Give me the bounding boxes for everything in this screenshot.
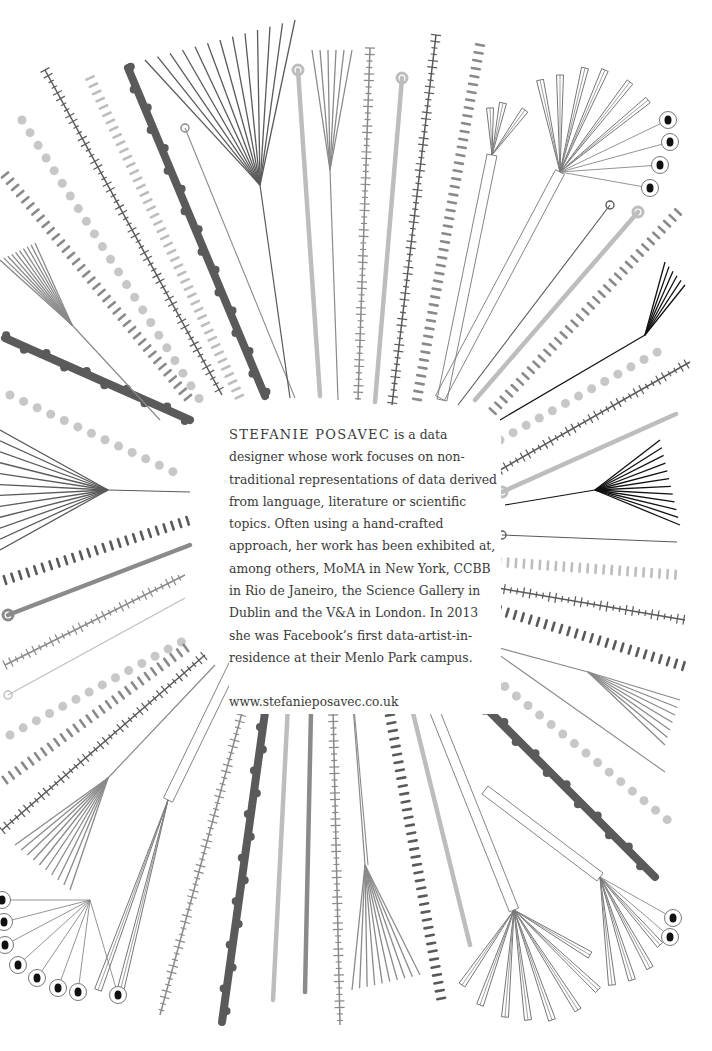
stroke-hatch <box>0 652 207 834</box>
stroke-thickline <box>3 545 190 620</box>
line-fan <box>350 665 420 990</box>
stroke-hatch <box>497 583 685 625</box>
stroke-hatch <box>387 34 441 405</box>
artist-bio: STEFANIE POSAVEC is a data designer whos… <box>229 424 501 714</box>
stroke-hatch <box>327 663 345 1025</box>
line-fan <box>145 20 295 398</box>
box-fan <box>95 660 240 1001</box>
eye-cluster <box>560 112 679 197</box>
stroke-thickline <box>293 65 320 396</box>
artist-website-link[interactable]: www.stefanieposavec.co.uk <box>229 691 398 713</box>
eye-cluster <box>0 892 127 1004</box>
stroke-hatch <box>353 48 375 400</box>
stroke-dash <box>4 517 189 584</box>
stroke-dash <box>491 604 685 670</box>
stroke-dash <box>500 558 676 579</box>
line-fan <box>0 430 190 550</box>
stroke-thick <box>2 331 190 425</box>
line-fan <box>470 640 680 745</box>
stroke-thickline <box>375 73 407 402</box>
stroke-thin <box>4 598 185 699</box>
stroke-thin <box>498 531 677 542</box>
stroke-dash <box>3 645 189 784</box>
bio-text: is a data designer whose work focuses on… <box>229 427 497 665</box>
artist-name: STEFANIE POSAVEC <box>229 427 390 442</box>
bio-paragraph: STEFANIE POSAVEC is a data designer whos… <box>229 424 501 669</box>
stroke-thin <box>488 646 665 772</box>
